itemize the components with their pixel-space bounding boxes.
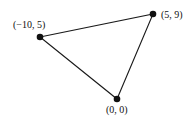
triangle-edges [40, 14, 153, 99]
vertex-label-c: (0, 0) [106, 104, 128, 116]
vertex-point [37, 34, 44, 41]
vertex-label-b: (5, 9) [161, 9, 183, 21]
vertex-label-a: (−10, 5) [13, 19, 45, 31]
vertex-point [114, 96, 121, 103]
vertex-point [150, 11, 157, 18]
triangle-diagram: (−10, 5) (5, 9) (0, 0) [0, 0, 194, 122]
